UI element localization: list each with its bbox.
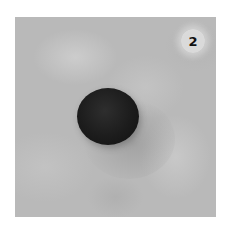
step-number: 2 — [188, 35, 197, 48]
step-badge: 2 — [181, 29, 205, 53]
step-photo: 2 — [15, 17, 216, 217]
black-ball — [77, 88, 139, 145]
